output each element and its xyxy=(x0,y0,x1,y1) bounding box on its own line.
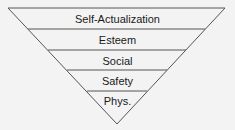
level-safety: Safety xyxy=(0,75,235,87)
level-esteem: Esteem xyxy=(0,34,235,46)
level-social: Social xyxy=(0,55,235,67)
level-phys: Phys. xyxy=(0,95,235,107)
level-self-actualization: Self-Actualization xyxy=(0,13,235,25)
